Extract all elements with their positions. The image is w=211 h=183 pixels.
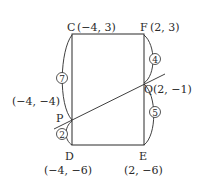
geometry-diagram: 7 2 4 5 C (−4, 3) F (2, 3) Q(2, −1) (−4,… <box>0 0 211 183</box>
svg-text:5: 5 <box>152 108 158 118</box>
ratio-4-badge: 4 <box>150 54 161 65</box>
label-p-coord: (−4, −4) <box>12 95 60 108</box>
svg-text:2: 2 <box>59 130 65 140</box>
ratio-2-badge: 2 <box>57 129 68 140</box>
label-d-coord: (−4, −6) <box>44 164 92 177</box>
ratio-5-badge: 5 <box>150 107 161 118</box>
ratio-7-badge: 7 <box>57 73 68 84</box>
label-e-coord: (2, −6) <box>124 164 163 177</box>
label-e: E <box>139 150 147 163</box>
label-f: F <box>140 21 148 34</box>
label-q-coord: Q(2, −1) <box>144 83 192 96</box>
label-p: P <box>56 112 64 125</box>
label-f-coord: (2, 3) <box>150 21 180 34</box>
label-d: D <box>65 150 74 163</box>
label-c: C <box>67 21 75 34</box>
svg-text:4: 4 <box>152 55 158 65</box>
label-c-coord: (−4, 3) <box>77 21 116 34</box>
svg-text:7: 7 <box>59 74 65 84</box>
